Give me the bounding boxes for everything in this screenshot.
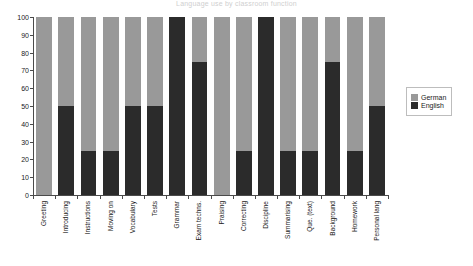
x-tick-mark: [299, 195, 300, 199]
x-tick-mark: [388, 195, 389, 199]
bar-slot: [77, 17, 99, 195]
bar-slot: [366, 17, 388, 195]
bar-segment-english: [347, 151, 363, 196]
x-tick-mark: [144, 195, 145, 199]
legend-label: German: [421, 94, 446, 101]
stacked-bar[interactable]: [214, 17, 230, 195]
x-tick-mark: [100, 195, 101, 199]
bar-slot: [188, 17, 210, 195]
x-axis-label: Correcting: [241, 201, 248, 231]
bar-segment-english: [325, 62, 341, 196]
stacked-bar[interactable]: [125, 17, 141, 195]
bar-segment-english: [236, 151, 252, 196]
x-axis-label: Vocabulary: [130, 201, 137, 233]
stacked-bar[interactable]: [325, 17, 341, 195]
x-axis-label: Summarising: [285, 201, 292, 239]
stacked-bar[interactable]: [347, 17, 363, 195]
chart-container: Language use by classroom function 10090…: [0, 0, 473, 266]
x-axis-label: Instructions: [85, 201, 92, 234]
x-tick-mark: [211, 195, 212, 199]
bar-segment-english: [147, 106, 163, 195]
stacked-bar[interactable]: [236, 17, 252, 195]
bar-segment-english: [258, 17, 274, 195]
x-label-slot: Introducing: [55, 200, 77, 264]
bar-segment-german: [58, 17, 74, 106]
bar-segment-english: [169, 17, 185, 195]
x-tick-mark: [255, 195, 256, 199]
stacked-bar[interactable]: [36, 17, 52, 195]
chart-title: Language use by classroom function: [0, 0, 473, 8]
y-tick-label: 20: [21, 156, 29, 163]
chart-legend: GermanEnglish: [406, 87, 452, 116]
x-tick-mark: [77, 195, 78, 199]
bar-segment-german: [325, 17, 341, 62]
plot-area: 1009080706050403020100: [33, 17, 388, 195]
stacked-bar[interactable]: [169, 17, 185, 195]
stacked-bar[interactable]: [258, 17, 274, 195]
x-label-slot: Personal lang: [366, 200, 388, 264]
x-axis-label: Homework: [351, 201, 358, 232]
x-axis-label: Grammar: [174, 201, 181, 228]
x-tick-mark: [122, 195, 123, 199]
y-tick-label: 10: [21, 174, 29, 181]
bar-segment-english: [302, 151, 318, 196]
x-axis-label: Greeting: [41, 201, 48, 226]
x-label-slot: Discipline: [255, 200, 277, 264]
bar-segment-english: [58, 106, 74, 195]
bar-slot: [122, 17, 144, 195]
bar-segment-german: [147, 17, 163, 106]
legend-item[interactable]: German: [411, 94, 446, 101]
x-label-slot: Praising: [211, 200, 233, 264]
legend-item[interactable]: English: [411, 102, 446, 109]
bar-slot: [211, 17, 233, 195]
bar-segment-german: [302, 17, 318, 151]
y-tick-label: 0: [25, 192, 29, 199]
bar-segment-english: [103, 151, 119, 196]
x-axis-label: Tests: [152, 201, 159, 216]
y-tick-label: 60: [21, 85, 29, 92]
x-label-slot: Moving on: [100, 200, 122, 264]
x-label-slot: Summarising: [277, 200, 299, 264]
bar-slot: [321, 17, 343, 195]
x-label-slot: Tests: [144, 200, 166, 264]
bar-slot: [299, 17, 321, 195]
x-axis-label: Introducing: [63, 201, 70, 233]
x-tick-mark: [55, 195, 56, 199]
stacked-bar[interactable]: [147, 17, 163, 195]
bar-slot: [255, 17, 277, 195]
bar-segment-english: [369, 106, 385, 195]
x-axis-label: Personal lang: [374, 201, 381, 241]
bar-segment-german: [125, 17, 141, 106]
x-label-slot: Greeting: [33, 200, 55, 264]
legend-swatch-icon: [411, 94, 418, 101]
stacked-bar[interactable]: [302, 17, 318, 195]
y-tick-label: 100: [17, 14, 29, 21]
y-tick-label: 80: [21, 49, 29, 56]
bar-segment-german: [192, 17, 208, 62]
stacked-bar[interactable]: [103, 17, 119, 195]
stacked-bar[interactable]: [280, 17, 296, 195]
x-axis-label: Discipline: [263, 201, 270, 229]
x-tick-mark: [233, 195, 234, 199]
bar-segment-german: [236, 17, 252, 151]
x-label-slot: Correcting: [233, 200, 255, 264]
x-tick-mark: [321, 195, 322, 199]
stacked-bar[interactable]: [58, 17, 74, 195]
bar-segment-german: [369, 17, 385, 106]
bar-slot: [233, 17, 255, 195]
legend-label: English: [421, 102, 444, 109]
stacked-bar[interactable]: [81, 17, 97, 195]
y-tick-label: 70: [21, 67, 29, 74]
bar-segment-german: [214, 17, 230, 195]
x-label-slot: Grammar: [166, 200, 188, 264]
bar-slot: [277, 17, 299, 195]
legend-swatch-icon: [411, 102, 418, 109]
stacked-bar[interactable]: [192, 17, 208, 195]
y-tick-label: 90: [21, 31, 29, 38]
x-axis-label: Moving on: [107, 201, 114, 231]
bar-slot: [55, 17, 77, 195]
x-tick-mark: [366, 195, 367, 199]
x-tick-mark: [33, 195, 34, 199]
y-tick-label: 50: [21, 103, 29, 110]
stacked-bar[interactable]: [369, 17, 385, 195]
